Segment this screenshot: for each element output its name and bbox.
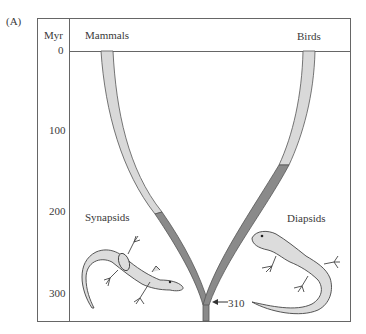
lineage-label-mammals: Mammals (85, 29, 129, 41)
axis-unit-label: Myr (44, 29, 63, 41)
axis-tick-200: 200 (49, 205, 66, 217)
axis-tick-0: 0 (58, 44, 64, 56)
diapsid-lizard-illustration (252, 231, 340, 313)
bird-branch (203, 51, 315, 305)
lineage-label-birds: Birds (297, 30, 321, 42)
divergence-arrow (212, 299, 228, 305)
divergence-time-label: 310 (228, 297, 245, 309)
synapsid-lizard-illustration (82, 236, 183, 308)
phylogeny-diagram (0, 0, 366, 334)
axis-tick-100: 100 (49, 124, 66, 136)
group-label-synapsids: Synapsids (85, 211, 130, 223)
axis-tick-300: 300 (49, 287, 66, 299)
group-label-diapsids: Diapsids (287, 212, 326, 224)
panel-label: (A) (6, 15, 21, 27)
